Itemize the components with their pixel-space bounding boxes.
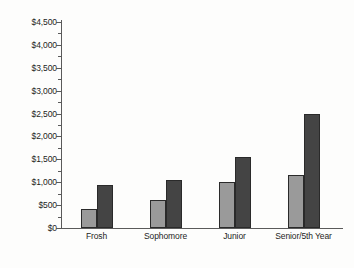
y-tick-major (56, 205, 62, 206)
y-tick-minor (58, 79, 62, 80)
x-tick-label: Junior (223, 231, 246, 241)
y-tick-major (56, 114, 62, 115)
y-tick-label: $4,000 (32, 40, 57, 50)
x-axis-line (61, 228, 343, 229)
y-tick-major (56, 91, 62, 92)
y-tick-label: $3,500 (32, 63, 57, 73)
y-tick-label: $1,000 (32, 177, 57, 187)
bar-dark (97, 185, 113, 228)
bar-chart: $0$500$1,000$1,500$2,000$2,500$3,000$3,5… (0, 0, 354, 268)
y-tick-major (56, 159, 62, 160)
y-tick-major (56, 182, 62, 183)
y-tick-major (56, 136, 62, 137)
bar-light (81, 209, 97, 228)
y-tick-label: $1,500 (32, 154, 57, 164)
y-tick-major (56, 228, 62, 229)
x-tick-label: Sophomore (144, 231, 187, 241)
y-tick-minor (58, 102, 62, 103)
y-tick-label: $2,500 (32, 109, 57, 119)
y-tick-label: $4,500 (32, 17, 57, 27)
bar-light (150, 200, 166, 228)
plot-area (62, 22, 338, 228)
x-tick-label: Senior/5th Year (275, 231, 332, 241)
y-tick-label: $3,000 (32, 86, 57, 96)
bar-dark (166, 180, 182, 228)
y-tick-label: $2,000 (32, 131, 57, 141)
y-tick-minor (58, 194, 62, 195)
y-tick-minor (58, 217, 62, 218)
y-tick-major (56, 68, 62, 69)
y-tick-minor (58, 56, 62, 57)
bar-light (288, 175, 304, 228)
bar-light (219, 182, 235, 228)
y-tick-minor (58, 125, 62, 126)
y-tick-major (56, 22, 62, 23)
y-axis-labels: $0$500$1,000$1,500$2,000$2,500$3,000$3,5… (0, 0, 57, 268)
x-tick-label: Frosh (86, 231, 107, 241)
y-tick-minor (58, 33, 62, 34)
x-axis-labels: FroshSophomoreJuniorSenior/5th Year (62, 231, 338, 251)
y-tick-label: $500 (38, 200, 57, 210)
y-tick-minor (58, 148, 62, 149)
bar-dark (235, 157, 251, 228)
y-tick-major (56, 45, 62, 46)
bar-dark (304, 114, 320, 228)
y-tick-minor (58, 171, 62, 172)
